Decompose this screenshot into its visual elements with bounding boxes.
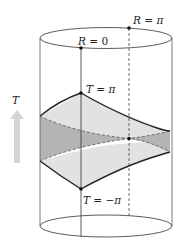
- label-t-pi: T = π: [86, 83, 117, 95]
- r-pi-dot: [127, 26, 131, 30]
- t-pi-dot: [79, 91, 83, 95]
- t-minus-pi-dot: [79, 187, 83, 191]
- ads-cylinder-diagram: T R = 0 R = π T = π T = −π: [0, 0, 180, 249]
- label-r-zero: R = 0: [77, 35, 108, 47]
- center-dot: [127, 137, 131, 141]
- time-arrow-icon: [10, 110, 24, 163]
- label-t-minus-pi: T = −π: [83, 194, 122, 206]
- label-r-pi: R = π: [132, 14, 164, 26]
- bottom-ellipse: [40, 215, 172, 237]
- axis-label-t: T: [12, 94, 20, 106]
